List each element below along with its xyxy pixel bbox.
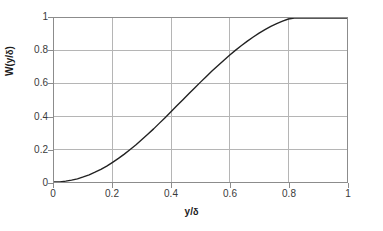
- y-axis-tick-label: 0.6: [34, 78, 48, 88]
- plot-area: [53, 17, 348, 183]
- x-axis-tick-label: 0: [50, 189, 56, 199]
- y-axis-tick-label: 0.4: [34, 112, 48, 122]
- x-axis-tick-label: 1: [345, 189, 351, 199]
- y-axis-tick-label: 0.8: [34, 45, 48, 55]
- x-axis-tick-label: 0.4: [164, 189, 178, 199]
- chart-figure: W(y/δ) 00.20.40.60.81 00.20.40.60.81 y/δ: [0, 0, 383, 231]
- y-axis-tick-label: 0.2: [34, 145, 48, 155]
- y-axis-tick-labels: 00.20.40.60.81: [8, 17, 48, 183]
- data-curve: [54, 18, 347, 182]
- delta-symbol: δ: [193, 207, 198, 217]
- x-axis-title-variable: y: [185, 206, 191, 217]
- x-axis-title: y/δ: [0, 206, 383, 217]
- x-axis-tick-label: 0.8: [282, 189, 296, 199]
- x-axis-tick-label: 0.2: [105, 189, 119, 199]
- x-axis-tick-label: 0.6: [223, 189, 237, 199]
- x-axis-tick-labels: 00.20.40.60.81: [53, 189, 348, 203]
